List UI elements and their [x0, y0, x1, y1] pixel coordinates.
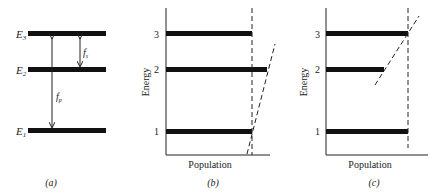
ylabel-b: Energy [140, 68, 151, 97]
energy-level-diagram: E3 E2 E1 fs fp (a) Energy 3 2 1 Populati… [0, 0, 444, 196]
pop-bar-3-c [326, 31, 408, 36]
caption-a: (a) [45, 177, 57, 189]
fp-label: fp [56, 91, 62, 103]
level3-tick-b: 3 [154, 29, 159, 40]
xlabel-c: Population [348, 159, 391, 170]
level3-tick-c: 3 [315, 29, 320, 40]
level-e1-label: E1 [15, 125, 26, 139]
level-e1-bar [28, 128, 106, 133]
level1-tick-c: 1 [315, 126, 320, 137]
pop-bar-3-b [166, 31, 252, 36]
fs-label: fs [83, 47, 89, 59]
xlabel-b: Population [188, 159, 231, 170]
level-e3-bar [28, 31, 106, 36]
panel-c: Energy 3 2 1 Population (c) [298, 8, 428, 189]
caption-c: (c) [368, 177, 380, 189]
pop-bar-1-b [166, 129, 252, 134]
pop-bar-1-c [326, 129, 408, 134]
ylabel-c: Energy [298, 68, 309, 97]
distribution-dashed-b [247, 44, 275, 154]
distribution-dashed-c [375, 16, 419, 85]
level-e2-bar [28, 67, 106, 72]
level2-tick-c: 2 [315, 64, 320, 75]
panel-a: E3 E2 E1 fs fp (a) [15, 28, 106, 189]
level2-tick-b: 2 [154, 64, 159, 75]
level-e3-label: E3 [15, 28, 27, 42]
caption-b: (b) [207, 177, 219, 189]
panel-b: Energy 3 2 1 Population (b) [140, 8, 275, 189]
level-e2-label: E2 [15, 64, 27, 78]
level1-tick-b: 1 [154, 126, 159, 137]
pop-bar-2-c [326, 67, 384, 72]
